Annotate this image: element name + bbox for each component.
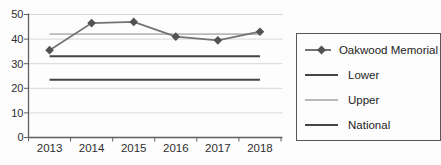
legend-item-national: National: [304, 119, 438, 131]
legend-item-lower: Lower: [304, 69, 438, 81]
diamond-marker-icon: [317, 45, 326, 54]
legend-swatch-line: [304, 94, 340, 106]
y-axis-label: 0: [17, 131, 23, 143]
x-axis-label: 2014: [79, 142, 105, 154]
series-line-oakwood-memorial: [50, 22, 260, 50]
diamond-marker: [129, 18, 138, 27]
diamond-marker: [214, 36, 223, 45]
legend-label: Lower: [348, 69, 379, 81]
diamond-marker: [45, 46, 54, 55]
legend-label: Oakwood Memorial: [339, 44, 438, 56]
legend-swatch-line: [304, 119, 340, 131]
y-axis-label: 20: [11, 82, 23, 94]
x-axis-label: 2016: [163, 142, 189, 154]
x-axis-label: 2018: [247, 142, 273, 154]
legend-swatch-line: [304, 69, 340, 81]
y-axis-label: 10: [11, 107, 23, 119]
y-axis-label: 40: [11, 33, 23, 45]
legend-label: Upper: [348, 94, 379, 106]
y-axis-label: 50: [11, 8, 23, 20]
legend-label: National: [348, 119, 390, 131]
x-axis-label: 2013: [37, 142, 63, 154]
legend-item-upper: Upper: [304, 94, 438, 106]
x-axis-label: 2017: [205, 142, 231, 154]
x-axis-label: 2015: [121, 142, 147, 154]
chart-legend: Oakwood MemorialLowerUpperNational: [296, 33, 441, 141]
legend-swatch-line: [304, 44, 331, 56]
y-axis-label: 30: [11, 58, 23, 70]
legend-item-oakwood-memorial: Oakwood Memorial: [304, 44, 438, 56]
diamond-marker: [87, 19, 96, 28]
